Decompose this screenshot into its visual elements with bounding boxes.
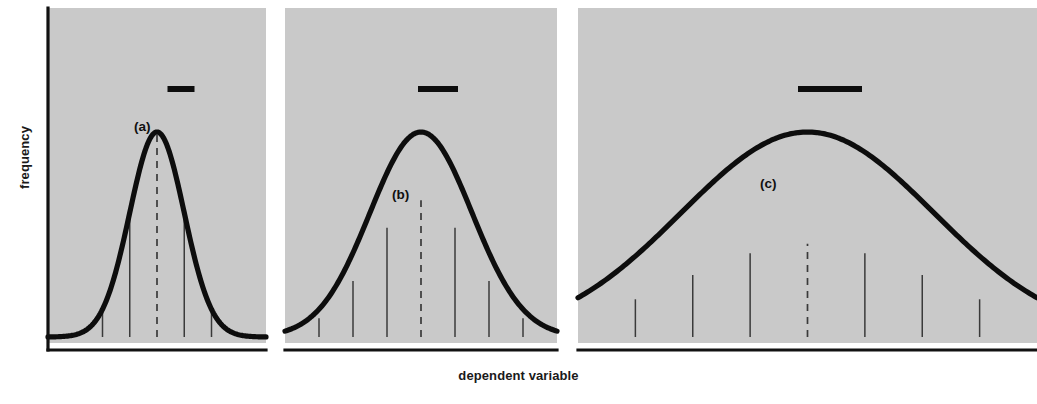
panel-b: (b) bbox=[285, 8, 557, 350]
spread-indicator-bar bbox=[418, 86, 458, 92]
spread-indicator-bar bbox=[798, 86, 862, 92]
panel-a: (a) bbox=[48, 8, 266, 350]
panel-c: (c) bbox=[578, 8, 1037, 350]
distribution-figure: frequency dependent variable (a)(b)(c) bbox=[0, 0, 1037, 404]
panel-label: (b) bbox=[392, 187, 409, 202]
spread-indicator-bar bbox=[168, 86, 195, 92]
panel-label: (a) bbox=[134, 119, 151, 134]
distribution-plot-canvas: (a)(b)(c) bbox=[0, 0, 1037, 404]
panel-label: (c) bbox=[760, 176, 777, 191]
